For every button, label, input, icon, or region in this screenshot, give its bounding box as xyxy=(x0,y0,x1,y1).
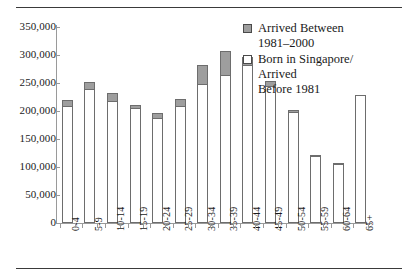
y-tick-label: 350,000 xyxy=(2,21,56,32)
bar-30-34 xyxy=(197,65,208,223)
bar-segment-born xyxy=(265,87,276,223)
bar-15-19 xyxy=(130,105,141,223)
x-tick-label: 35-39 xyxy=(229,207,239,231)
x-tick-label: 45-49 xyxy=(274,207,284,231)
x-tick-mark xyxy=(263,223,264,228)
x-tick-label: 40-44 xyxy=(252,207,262,231)
x-tick-mark xyxy=(331,223,332,228)
y-tick-mark xyxy=(56,167,60,168)
x-tick-mark xyxy=(173,223,174,228)
y-tick-label: 250,000 xyxy=(2,77,56,88)
x-tick-label: 50-54 xyxy=(297,207,307,231)
bar-segment-arrived xyxy=(84,82,95,90)
top-rule xyxy=(16,7,402,8)
bar-5-9 xyxy=(84,82,95,223)
x-tick-mark xyxy=(165,223,166,228)
legend-item-born: Born in Singapore/ Arrived Before 1981 xyxy=(243,52,353,97)
x-tick-mark xyxy=(82,223,83,228)
x-tick-mark xyxy=(218,223,219,228)
y-tick-label: 0 xyxy=(2,217,56,228)
bar-65plus xyxy=(355,95,366,223)
y-tick-mark xyxy=(56,27,60,28)
chart-legend: Arrived Between 1981–2000 Born in Singap… xyxy=(243,21,353,98)
x-tick-mark xyxy=(128,223,129,228)
bar-segment-born xyxy=(84,90,95,223)
x-tick-mark xyxy=(278,223,279,228)
x-tick-mark xyxy=(120,223,121,228)
bar-segment-arrived xyxy=(220,51,231,76)
bar-segment-born xyxy=(197,85,208,223)
bar-segment-born xyxy=(107,102,118,223)
bar-45-49 xyxy=(265,81,276,223)
x-tick-mark xyxy=(75,223,76,228)
bar-segment-arrived xyxy=(197,65,208,85)
x-tick-mark xyxy=(210,223,211,228)
bar-segment-arrived xyxy=(107,93,118,103)
x-tick-mark xyxy=(368,223,369,228)
y-tick-label: 300,000 xyxy=(2,49,56,60)
x-tick-label: 60-64 xyxy=(342,207,352,231)
x-tick-mark xyxy=(240,223,241,228)
legend-item-arrived: Arrived Between 1981–2000 xyxy=(243,21,353,51)
legend-swatch-arrived-icon xyxy=(243,24,252,33)
x-tick-mark xyxy=(188,223,189,228)
bar-10-14 xyxy=(107,93,118,223)
x-tick-mark xyxy=(308,223,309,228)
bar-segment-arrived xyxy=(62,100,73,107)
x-tick-mark xyxy=(301,223,302,228)
x-tick-label: 15-19 xyxy=(139,207,149,231)
x-tick-label: 10-14 xyxy=(116,207,126,231)
y-tick-mark xyxy=(56,195,60,196)
x-tick-label: 65+ xyxy=(365,215,375,231)
x-tick-mark xyxy=(233,223,234,228)
bar-0-4 xyxy=(62,100,73,223)
legend-label-born: Born in Singapore/ Arrived Before 1981 xyxy=(258,52,353,97)
y-tick-mark xyxy=(56,55,60,56)
x-tick-label: 5-9 xyxy=(94,217,104,231)
bar-35-39 xyxy=(220,51,231,223)
x-tick-mark xyxy=(195,223,196,228)
bar-segment-born xyxy=(355,95,366,223)
x-tick-mark xyxy=(105,223,106,228)
bar-segment-born xyxy=(220,76,231,223)
bottom-rule xyxy=(16,268,402,269)
x-tick-mark xyxy=(150,223,151,228)
y-axis-tick-labels: 050,000100,000150,000200,000250,000300,0… xyxy=(0,0,56,279)
bar-segment-born xyxy=(175,107,186,223)
y-tick-mark xyxy=(56,111,60,112)
x-tick-mark xyxy=(97,223,98,228)
legend-label-arrived: Arrived Between 1981–2000 xyxy=(258,21,344,51)
x-tick-mark xyxy=(353,223,354,228)
x-tick-label: 55-59 xyxy=(320,207,330,231)
x-tick-mark xyxy=(286,223,287,228)
bar-segment-arrived xyxy=(175,99,186,107)
y-tick-mark xyxy=(56,83,60,84)
x-tick-mark xyxy=(323,223,324,228)
x-tick-label: 20-24 xyxy=(162,207,172,231)
y-tick-label: 50,000 xyxy=(2,189,56,200)
figure: 050,000100,000150,000200,000250,000300,0… xyxy=(0,0,418,279)
x-tick-mark xyxy=(346,223,347,228)
x-tick-label: 0-4 xyxy=(71,217,81,231)
bar-25-29 xyxy=(175,99,186,223)
x-tick-mark xyxy=(255,223,256,228)
y-tick-mark xyxy=(56,139,60,140)
x-tick-label: 30-34 xyxy=(207,207,217,231)
y-tick-label: 100,000 xyxy=(2,161,56,172)
bar-segment-born xyxy=(62,107,73,223)
legend-swatch-born-icon xyxy=(243,55,252,64)
x-tick-label: 25-29 xyxy=(184,207,194,231)
y-tick-label: 150,000 xyxy=(2,133,56,144)
y-tick-label: 200,000 xyxy=(2,105,56,116)
x-tick-mark xyxy=(143,223,144,228)
x-tick-mark xyxy=(60,223,61,228)
